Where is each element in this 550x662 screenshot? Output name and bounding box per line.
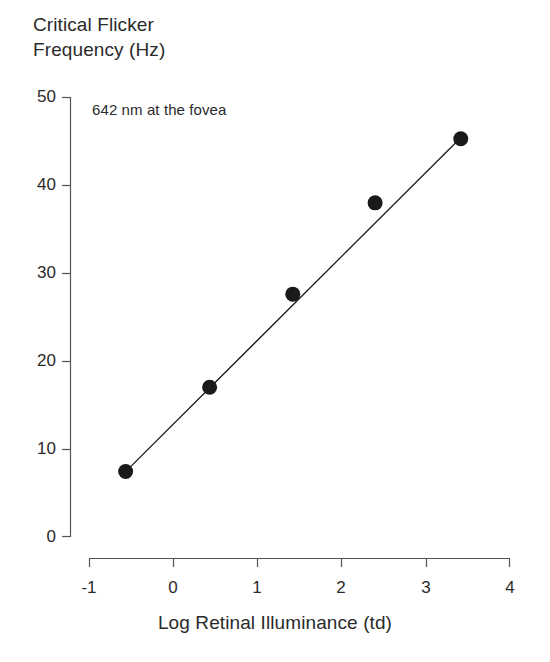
data-point-1 <box>202 380 217 395</box>
chart-x-axis-title: Log Retinal Illuminance (td) <box>0 612 550 634</box>
chart-plot-area <box>0 0 550 662</box>
x-axis <box>89 559 510 568</box>
data-point-4 <box>453 131 468 146</box>
data-point-0 <box>118 464 133 479</box>
chart-fit-line <box>123 133 465 474</box>
data-point-2 <box>285 287 300 302</box>
chart-figure: Critical FlickerFrequency (Hz) 642 nm at… <box>0 0 550 662</box>
data-point-3 <box>368 195 383 210</box>
y-axis <box>62 97 71 537</box>
